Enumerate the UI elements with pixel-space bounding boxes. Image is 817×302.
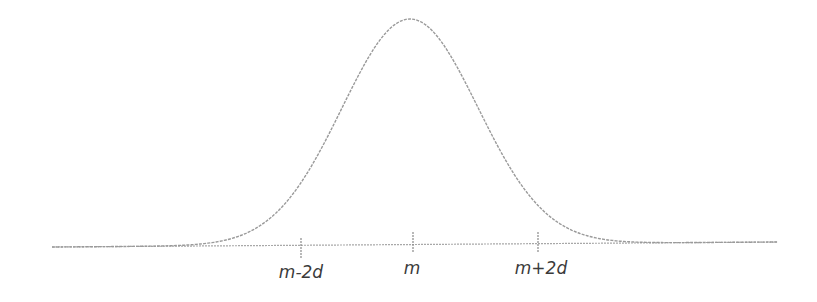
tick-label-m-minus-2d: m-2d xyxy=(279,262,323,282)
tick-label-m: m xyxy=(404,258,421,278)
tick-label-m-plus-2d: m+2d xyxy=(515,258,567,278)
bell-curve-chart xyxy=(0,0,817,302)
normal-distribution-curve xyxy=(52,19,778,247)
